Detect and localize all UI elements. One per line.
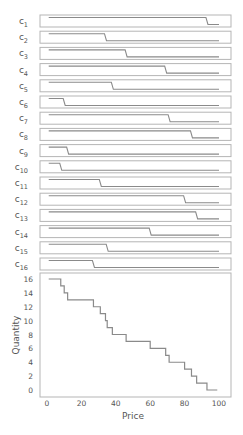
panel-c3: c3 — [19, 47, 231, 61]
x-axis-ticks: 020406080100 — [45, 399, 227, 408]
panel-frame — [40, 15, 231, 27]
plot-frame — [40, 273, 231, 397]
individual-demand-line — [49, 196, 219, 203]
panel-label: c2 — [19, 32, 28, 45]
individual-demand-line — [49, 212, 219, 219]
y-tick-label: 14 — [23, 289, 33, 298]
panel-frame — [40, 31, 231, 43]
y-tick-label: 10 — [23, 317, 33, 326]
individual-demand-line — [49, 66, 219, 73]
panel-c2: c2 — [19, 31, 231, 45]
panel-c9: c9 — [19, 145, 231, 159]
panel-label: c1 — [19, 16, 28, 29]
panel-frame — [40, 47, 231, 59]
panel-c1: c1 — [19, 15, 231, 29]
panel-label: c13 — [15, 210, 28, 223]
individual-demand-line — [49, 131, 219, 138]
y-tick-label: 2 — [28, 372, 33, 381]
panel-c12: c12 — [15, 193, 231, 207]
panel-c7: c7 — [19, 112, 231, 126]
y-tick-label: 4 — [28, 358, 33, 367]
individual-demand-line — [49, 244, 219, 251]
panel-label: c4 — [19, 65, 28, 78]
x-tick-label: 40 — [111, 399, 121, 408]
y-tick-label: 8 — [28, 331, 33, 340]
panel-c8: c8 — [19, 128, 231, 142]
panel-c16: c16 — [15, 258, 231, 272]
panel-c15: c15 — [15, 242, 231, 256]
panel-frame — [40, 226, 231, 238]
individual-demand-line — [49, 115, 219, 122]
aggregate-demand-line — [49, 279, 218, 390]
y-tick-label: 16 — [23, 275, 33, 284]
panel-label: c12 — [15, 194, 28, 207]
panel-label: c11 — [15, 178, 28, 191]
panel-label: c6 — [19, 97, 28, 110]
panel-label: c10 — [15, 162, 28, 175]
panel-frame — [40, 80, 231, 92]
x-tick-label: 100 — [212, 399, 227, 408]
y-axis-label: Quantity — [11, 315, 21, 355]
panel-label: c15 — [15, 243, 28, 256]
aggregate-demand-plot: 0246810121416 020406080100 Price Quantit… — [11, 273, 231, 421]
x-tick-label: 0 — [45, 399, 50, 408]
x-axis-label: Price — [122, 411, 144, 421]
individual-demand-panels: c1c2c3c4c5c6c7c8c9c10c11c12c13c14c15c16 — [15, 15, 231, 272]
panel-frame — [40, 258, 231, 270]
individual-demand-line — [49, 180, 219, 187]
panel-c14: c14 — [15, 226, 231, 240]
panel-c10: c10 — [15, 161, 231, 175]
individual-demand-line — [49, 82, 219, 89]
individual-demand-line — [49, 34, 219, 41]
panel-label: c5 — [19, 81, 28, 94]
panel-frame — [40, 209, 231, 221]
panel-frame — [40, 193, 231, 205]
panel-frame — [40, 112, 231, 124]
panel-frame — [40, 145, 231, 157]
panel-frame — [40, 64, 231, 76]
individual-demand-line — [49, 163, 219, 170]
panel-frame — [40, 177, 231, 189]
y-tick-label: 0 — [28, 386, 33, 395]
panel-c11: c11 — [15, 177, 231, 191]
panel-frame — [40, 128, 231, 140]
panel-frame — [40, 242, 231, 254]
individual-demand-line — [49, 99, 219, 106]
x-tick-label: 80 — [180, 399, 190, 408]
panel-label: c3 — [19, 48, 28, 61]
panel-c4: c4 — [19, 64, 231, 78]
panel-c5: c5 — [19, 80, 231, 94]
individual-demand-line — [49, 261, 219, 268]
individual-demand-line — [49, 18, 219, 25]
demand-chart: c1c2c3c4c5c6c7c8c9c10c11c12c13c14c15c16 … — [0, 0, 243, 435]
x-tick-label: 60 — [145, 399, 155, 408]
panel-label: c8 — [19, 129, 28, 142]
panel-frame — [40, 96, 231, 108]
panel-label: c7 — [19, 113, 28, 126]
panel-label: c14 — [15, 227, 28, 240]
y-tick-label: 6 — [28, 344, 33, 353]
panel-c6: c6 — [19, 96, 231, 110]
x-tick-label: 20 — [77, 399, 87, 408]
individual-demand-line — [49, 147, 219, 154]
individual-demand-line — [49, 228, 219, 235]
panel-label: c16 — [15, 259, 28, 272]
y-tick-label: 12 — [23, 303, 33, 312]
individual-demand-line — [49, 50, 219, 57]
panel-c13: c13 — [15, 209, 231, 223]
panel-frame — [40, 161, 231, 173]
y-axis-ticks: 0246810121416 — [23, 275, 33, 395]
panel-label: c9 — [19, 146, 28, 159]
